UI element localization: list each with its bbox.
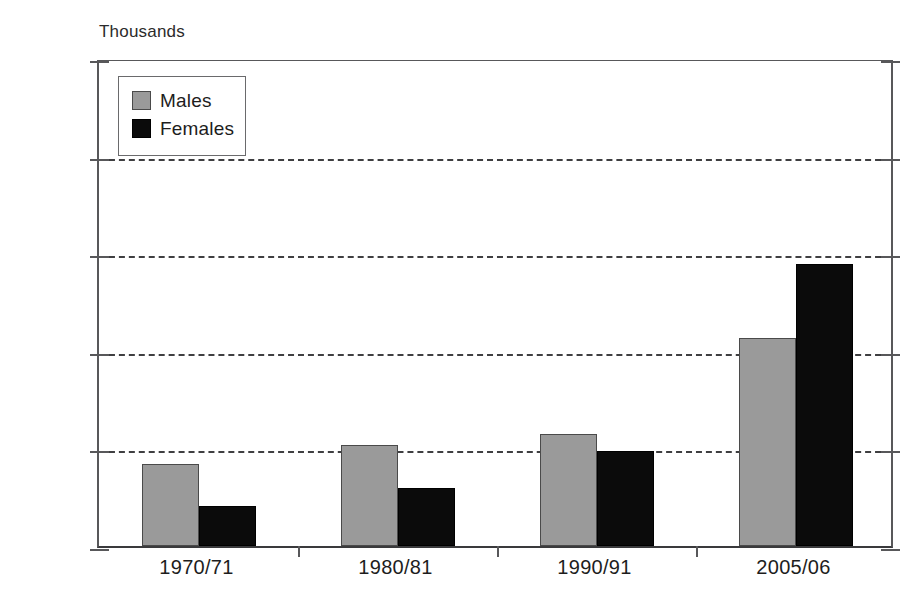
y-axis-tick <box>90 354 109 356</box>
bar-males-1970-71 <box>142 464 199 546</box>
y-axis-tick <box>881 354 900 356</box>
y-axis-tick <box>881 549 900 551</box>
y-axis-tick <box>90 549 109 551</box>
x-axis-label-1970-71: 1970/71 <box>97 556 296 579</box>
bar-males-2005-06 <box>739 338 796 546</box>
x-axis-label-1990-91: 1990/91 <box>495 556 694 579</box>
y-axis-tick <box>90 451 109 453</box>
bar-females-2005-06 <box>796 264 853 546</box>
legend: MalesFemales <box>118 76 246 156</box>
bar-males-1990-91 <box>540 434 597 546</box>
y-axis-tick <box>881 451 900 453</box>
legend-item-males: Males <box>132 86 245 114</box>
bar-females-1970-71 <box>199 506 256 546</box>
bar-chart: Thousands 05001,0001,5002,0002,500 1970/… <box>0 0 916 615</box>
legend-label: Females <box>160 119 234 138</box>
legend-swatch-males-icon <box>132 91 151 110</box>
y-axis-tick <box>881 256 900 258</box>
y-axis-tick <box>90 61 109 63</box>
bar-females-1990-91 <box>597 451 654 546</box>
legend-swatch-females-icon <box>132 119 151 138</box>
y-axis-tick <box>90 159 109 161</box>
gridline <box>99 159 891 161</box>
bar-females-1980-81 <box>398 488 455 546</box>
legend-label: Males <box>160 91 212 110</box>
x-axis-label-2005-06: 2005/06 <box>694 556 893 579</box>
x-axis-label-1980-81: 1980/81 <box>296 556 495 579</box>
y-axis-tick <box>881 159 900 161</box>
gridline <box>99 256 891 258</box>
bar-males-1980-81 <box>341 445 398 547</box>
y-axis-tick <box>90 256 109 258</box>
legend-item-females: Females <box>132 114 245 142</box>
y-axis-tick <box>881 61 900 63</box>
y-axis-unit-caption: Thousands <box>99 22 185 42</box>
